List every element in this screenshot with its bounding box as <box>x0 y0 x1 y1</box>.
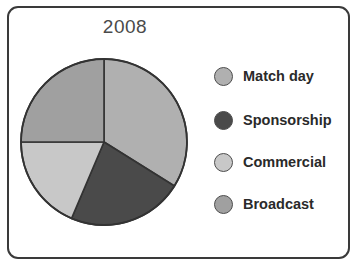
legend-item-label: Commercial <box>243 154 326 170</box>
legend-swatch-icon <box>214 195 233 214</box>
pie-svg <box>12 50 196 234</box>
legend-item-label: Match day <box>243 68 314 84</box>
legend-item-match-day[interactable]: Match day <box>214 64 314 88</box>
legend-item-label: Broadcast <box>243 196 314 212</box>
pie-slice-broadcast[interactable] <box>21 59 104 142</box>
chart-title: 2008 <box>0 16 250 38</box>
legend-swatch-icon <box>214 67 233 86</box>
legend-item-sponsorship[interactable]: Sponsorship <box>214 108 332 132</box>
legend-swatch-icon <box>214 153 233 172</box>
legend-item-label: Sponsorship <box>243 112 332 128</box>
pie-chart-area <box>12 50 196 234</box>
legend-item-broadcast[interactable]: Broadcast <box>214 192 314 216</box>
legend-swatch-icon <box>214 111 233 130</box>
pie-slices-group <box>21 59 187 225</box>
pie-chart-figure: 2008 Match daySponsorshipCommercialBroad… <box>0 0 361 269</box>
chart-legend: Match daySponsorshipCommercialBroadcast <box>214 64 354 234</box>
legend-item-commercial[interactable]: Commercial <box>214 150 326 174</box>
